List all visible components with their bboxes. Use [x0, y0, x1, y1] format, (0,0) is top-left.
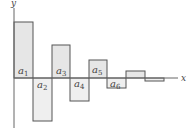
rect-a7	[126, 71, 145, 78]
x-axis-label: x	[181, 73, 186, 83]
alternating-series-diagram: y x a1 a2 a3 a4 a5 a6	[0, 0, 194, 133]
y-axis-label: y	[10, 0, 17, 8]
rectangles	[14, 22, 164, 121]
